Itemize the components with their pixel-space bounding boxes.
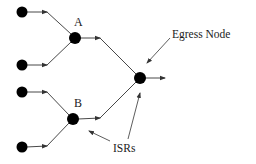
network-diagram: A B Egress Node ISRs (0, 0, 256, 164)
node-a (69, 32, 81, 44)
edge-src2-to-a (26, 42, 71, 65)
isrs-label: ISRs (113, 142, 136, 154)
isrs-label-pointer-b (89, 131, 110, 141)
egress-node (134, 72, 146, 84)
edge-src1-to-a (26, 12, 71, 34)
edge-src4-to-b (26, 123, 69, 147)
source-node-2 (17, 60, 28, 71)
edge-a-to-egress (80, 38, 136, 74)
egress-node-label: Egress Node (172, 28, 230, 41)
node-b-label: B (74, 96, 82, 110)
egress-label-pointer (147, 38, 170, 63)
source-node-3 (17, 87, 28, 98)
node-b (67, 113, 79, 125)
isrs-label-pointer-egress (128, 93, 140, 139)
edge-src3-to-b (26, 92, 69, 115)
edge-b-to-egress (78, 82, 136, 119)
node-a-label: A (74, 15, 83, 29)
source-node-1 (17, 7, 28, 18)
source-node-4 (17, 142, 28, 153)
